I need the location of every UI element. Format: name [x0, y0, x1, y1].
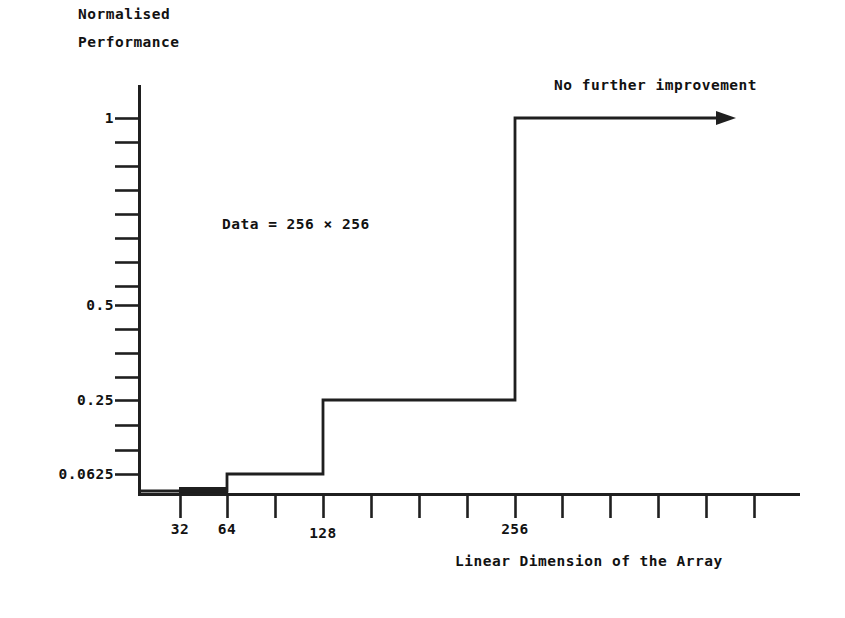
arrowhead-right-icon [716, 111, 736, 125]
step-curve [139, 118, 722, 491]
step-chart-figure: Normalised Performance Linear Dimension … [0, 0, 845, 618]
scan-edge-artifact [0, 596, 845, 618]
plot-canvas [0, 0, 845, 618]
y-axis-ticks [115, 119, 139, 475]
x-axis-ticks [181, 494, 755, 518]
scan-edge-text [18, 596, 23, 603]
